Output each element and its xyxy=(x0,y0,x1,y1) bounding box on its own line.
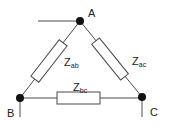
node-b-dot xyxy=(16,94,24,102)
impedance-zab-label: Zab xyxy=(64,56,79,69)
node-c-label: C xyxy=(150,106,158,118)
delta-network-diagram: A B C Zab Zac Zbc xyxy=(0,0,171,127)
impedance-zbc-label: Zbc xyxy=(73,81,88,94)
impedance-zac-resistor xyxy=(92,38,129,80)
impedance-zac-label: Zac xyxy=(132,55,147,68)
node-a-dot xyxy=(76,17,84,25)
node-a-label: A xyxy=(88,7,96,19)
node-c-dot xyxy=(138,93,146,101)
node-b-label: B xyxy=(7,107,14,119)
impedance-zbc-resistor xyxy=(57,92,100,104)
impedance-zab-resistor xyxy=(31,40,67,82)
